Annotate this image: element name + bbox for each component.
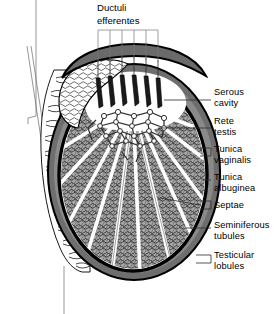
ductuli-efferentes-label-line2: efferentes <box>97 15 140 26</box>
ductuli-efferentes-label-line1: Ductuli <box>97 2 126 13</box>
serous-cavity-label-line2: cavity <box>214 98 239 108</box>
septae-label: Septae <box>214 200 244 210</box>
seminiferous-tubules-label-line1: Seminiferous <box>214 220 270 230</box>
testicular-lobules-label-line1: Testicular <box>214 250 254 260</box>
rete-testis-label-line1: Rete <box>214 116 234 126</box>
testis-anatomy-diagram: Ductuli efferentes Serous cavity Rete te… <box>0 0 276 314</box>
testicular-lobules-label-line2: lobules <box>214 261 244 271</box>
tunica-vaginalis-label-line1: Tunica <box>214 144 243 154</box>
seminiferous-tubules-label-line2: tubules <box>214 231 245 241</box>
tunica-albuginea-label-line2: albuginea <box>214 183 256 193</box>
tunica-vaginalis-label-line2: vaginalis <box>214 155 251 165</box>
tunica-albuginea-label-line1: Tunica <box>214 172 243 182</box>
serous-cavity-label-line1: Serous <box>214 87 244 97</box>
rete-testis-label-line2: testis <box>214 127 237 137</box>
